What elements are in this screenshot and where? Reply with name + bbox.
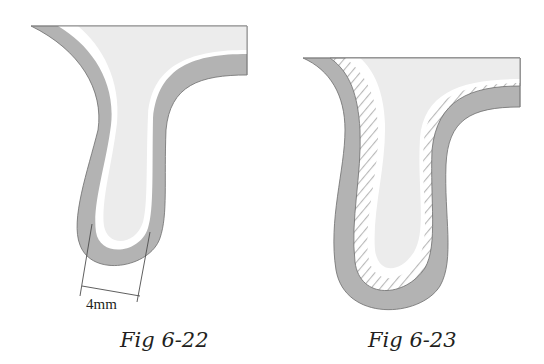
caption-fig-6-22: Fig 6-22: [120, 328, 209, 352]
figure-6-22: 4mm: [31, 26, 247, 312]
figure-6-23: [303, 58, 520, 310]
dimension-label: 4mm: [86, 296, 117, 312]
diagram-canvas: 4mm: [0, 0, 544, 364]
caption-fig-6-23: Fig 6-23: [368, 328, 457, 352]
